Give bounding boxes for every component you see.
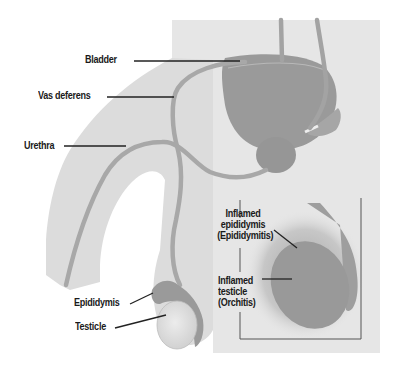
label-line: (Epididymitis) <box>217 230 269 241</box>
label-line: (Orchitis) <box>218 297 256 308</box>
prostate <box>256 137 296 173</box>
label-inflamed-epididymis: Inflamed epididymis (Epididymitis) <box>217 208 269 241</box>
anatomy-diagram: Bladder Vas deferens Urethra Epididymis … <box>0 0 400 373</box>
label-testicle: Testicle <box>75 321 106 332</box>
label-epididymis: Epididymis <box>74 297 120 308</box>
label-vas-deferens: Vas deferens <box>38 90 91 101</box>
label-inflamed-testicle: Inflamed testicle (Orchitis) <box>218 275 256 308</box>
label-bladder: Bladder <box>85 54 117 65</box>
anatomy-illustration <box>0 0 400 373</box>
label-urethra: Urethra <box>24 140 54 151</box>
testicle <box>157 301 197 349</box>
